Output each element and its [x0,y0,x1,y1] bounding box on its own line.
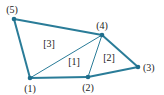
node-label-2: (2) [82,82,94,94]
node-label-5: (5) [6,4,18,16]
element-label-3: [3] [43,38,55,49]
node-1 [28,76,33,81]
node-label-4: (4) [96,20,108,32]
node-5 [12,17,17,22]
edge-1-4 [30,35,102,78]
node-3 [136,65,141,70]
edge-2-3 [88,67,138,77]
node-2 [86,75,91,80]
node-4 [100,33,105,38]
edge-2-4 [88,35,102,77]
element-label-2: [2] [103,52,115,63]
edge-5-1 [14,19,30,78]
node-label-1: (1) [24,83,36,95]
node-label-3: (3) [143,62,155,74]
edge-4-5 [14,19,102,35]
edge-1-2 [30,77,88,78]
element-label-1: [1] [68,56,80,67]
finite-element-mesh: (1) (2) (3) (4) (5) [3] [1] [2] [0,0,164,95]
